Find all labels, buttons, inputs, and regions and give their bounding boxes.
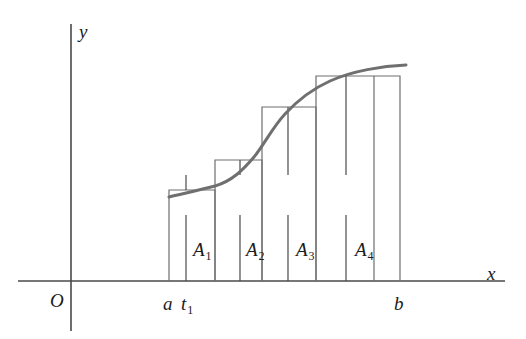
x-axis-label: x [487, 264, 495, 283]
sample-point-label-base: t [181, 293, 186, 314]
area-label-a4: A4 [355, 240, 373, 259]
area-label-base: A [246, 239, 258, 260]
area-label-a2: A2 [246, 240, 264, 259]
origin-label: O [50, 291, 64, 310]
area-label-subscript: 2 [259, 249, 265, 263]
riemann-sum-figure: y x O a t1 b A1A2A3A4 [0, 0, 526, 339]
area-label-subscript: 4 [368, 249, 374, 263]
upper-bound-label-b: b [394, 294, 404, 313]
area-label-base: A [355, 239, 367, 260]
riemann-rectangle [215, 160, 262, 281]
lower-bound-label-a: a [163, 294, 173, 313]
area-label-subscript: 1 [206, 249, 212, 263]
area-label-base: A [296, 239, 308, 260]
area-label-a3: A3 [296, 240, 314, 259]
y-axis-label: y [79, 22, 87, 41]
area-label-a1: A1 [193, 240, 211, 259]
riemann-rectangle [169, 190, 215, 281]
riemann-sum-plot [0, 0, 526, 339]
area-label-base: A [193, 239, 205, 260]
sample-point-label-t1: t1 [181, 294, 192, 313]
area-label-subscript: 3 [309, 249, 315, 263]
sample-point-label-subscript: 1 [187, 303, 193, 317]
